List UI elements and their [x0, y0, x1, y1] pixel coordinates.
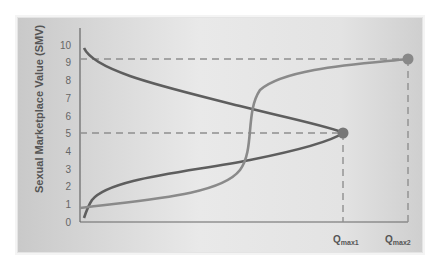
svg-text:10: 10	[60, 40, 72, 51]
svg-text:Qmax1: Qmax1	[333, 234, 359, 246]
svg-text:1: 1	[65, 199, 71, 210]
svg-text:7: 7	[65, 93, 71, 104]
qmax1-marker	[338, 128, 349, 139]
svg-text:0: 0	[65, 217, 71, 228]
chart-svg: 0 1 2 3 4 5 6 7 8 9 10 Qmax1 Qmax2	[0, 0, 437, 274]
x-tick-labels: Qmax1 Qmax2	[333, 234, 411, 246]
svg-text:8: 8	[65, 75, 71, 86]
y-tick-labels: 0 1 2 3 4 5 6 7 8 9 10	[60, 40, 72, 228]
svg-text:Qmax2: Qmax2	[385, 234, 411, 246]
svg-text:4: 4	[65, 146, 71, 157]
svg-text:2: 2	[65, 181, 71, 192]
reference-lines	[80, 59, 408, 222]
svg-text:6: 6	[65, 111, 71, 122]
svg-text:3: 3	[65, 164, 71, 175]
y-axis-label: Sexual Marketplace Value (SMV)	[33, 43, 45, 193]
qmax2-marker	[403, 54, 414, 65]
svg-text:9: 9	[65, 57, 71, 68]
svg-text:5: 5	[65, 128, 71, 139]
